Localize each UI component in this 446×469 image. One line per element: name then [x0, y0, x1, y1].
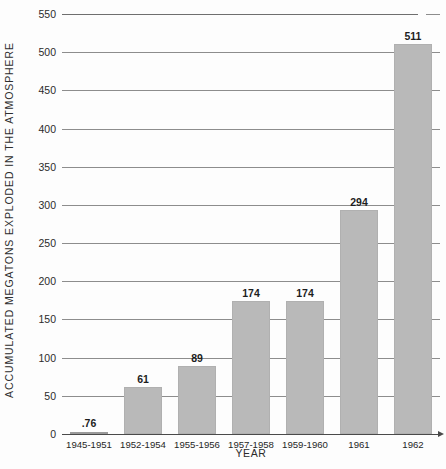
x-axis-arrow [438, 431, 444, 437]
bar-value-label: 174 [296, 287, 314, 299]
y-axis-tick-label: 450 [38, 84, 56, 96]
y-axis-tick-label: 550 [38, 8, 56, 20]
y-axis-tick-label: 300 [38, 199, 56, 211]
bar-value-label: .76 [82, 417, 97, 429]
bar-value-label: 89 [191, 352, 203, 364]
gridline [62, 14, 418, 15]
bar-value-label: 511 [405, 30, 422, 42]
bar: 511 [394, 44, 432, 434]
plot-area: 050100150200250300350400450500550 .76618… [62, 14, 440, 434]
bar-value-label: 174 [242, 287, 260, 299]
bar: 89 [178, 366, 216, 434]
y-axis-title-text: ACCUMULATED MEGATONS EXPLODED IN THE ATM… [3, 42, 15, 398]
y-axis-tick-label: 200 [38, 275, 56, 287]
gridline [62, 52, 418, 53]
y-axis-title: ACCUMULATED MEGATONS EXPLODED IN THE ATM… [0, 0, 18, 440]
bar-value-label: 294 [350, 196, 368, 208]
axis-tick-mark [426, 14, 440, 15]
x-axis-title: YEAR [62, 447, 440, 459]
chart-figure: ACCUMULATED MEGATONS EXPLODED IN THE ATM… [0, 0, 446, 469]
y-axis-tick-label: 350 [38, 161, 56, 173]
y-axis-tick-label: 500 [38, 46, 56, 58]
bar: 61 [124, 387, 162, 434]
y-axis-tick-label: 50 [44, 390, 56, 402]
bar-value-label: 61 [137, 373, 149, 385]
gridline [62, 129, 418, 130]
gridline [62, 167, 418, 168]
y-axis-tick-label: 0 [50, 428, 56, 440]
y-axis-tick-label: 100 [38, 352, 56, 364]
x-axis-line [62, 434, 440, 435]
gridline [62, 90, 418, 91]
y-axis-tick-label: 150 [38, 313, 56, 325]
bar: 174 [286, 301, 324, 434]
y-axis-tick-label: 250 [38, 237, 56, 249]
y-axis-tick-label: 400 [38, 123, 56, 135]
bar: 174 [232, 301, 270, 434]
bar: 294 [340, 210, 378, 435]
